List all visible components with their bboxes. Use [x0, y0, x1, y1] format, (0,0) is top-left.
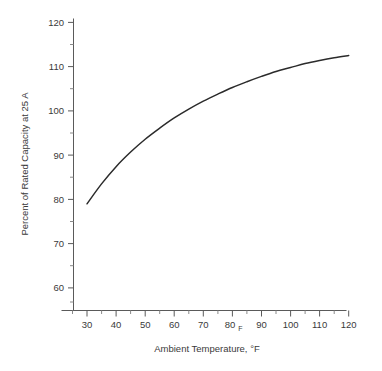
x-tick-label: 70: [198, 319, 209, 330]
x-tick-label: 50: [140, 319, 151, 330]
x-tick-label: 100: [283, 319, 299, 330]
stray-f-glyph: F: [238, 325, 242, 332]
y-axis-title: Percent of Rated Capacity at 25 A: [19, 92, 30, 236]
x-tick-label: 40: [111, 319, 122, 330]
y-tick-label: 100: [48, 105, 64, 116]
y-axis-tick-labels: 120 110 100 90 80 70 60: [48, 17, 64, 294]
y-tick-label: 60: [53, 282, 64, 293]
x-axis-title: Ambient Temperature, °F: [154, 343, 260, 354]
x-tick-label: 60: [169, 319, 180, 330]
y-tick-label: 80: [53, 194, 64, 205]
y-tick-label: 90: [53, 150, 64, 161]
x-tick-label: 120: [341, 319, 357, 330]
y-tick-label: 110: [49, 61, 64, 72]
line-chart: 120 110 100 90 80 70 60: [0, 0, 382, 371]
x-axis-title-unit: °F: [250, 343, 260, 354]
x-axis-title-text: Ambient Temperature,: [154, 343, 250, 354]
chart-figure: 120 110 100 90 80 70 60: [0, 0, 382, 371]
x-tick-label: 110: [312, 319, 327, 330]
y-axis-minor-ticks: [70, 45, 74, 303]
x-tick-label: 80: [225, 319, 236, 330]
x-axis-tick-labels: 30 40 50 60 70 80 F 90 100 110 120: [82, 319, 357, 332]
y-tick-label: 120: [48, 17, 64, 28]
y-tick-label: 70: [53, 238, 64, 249]
svg-text:Ambient Temperature, °F: Ambient Temperature, °F: [154, 343, 260, 354]
x-tick-label: 90: [256, 319, 267, 330]
data-series-line: [87, 56, 349, 204]
x-tick-label: 30: [82, 319, 93, 330]
y-axis-major-ticks: [68, 22, 74, 288]
